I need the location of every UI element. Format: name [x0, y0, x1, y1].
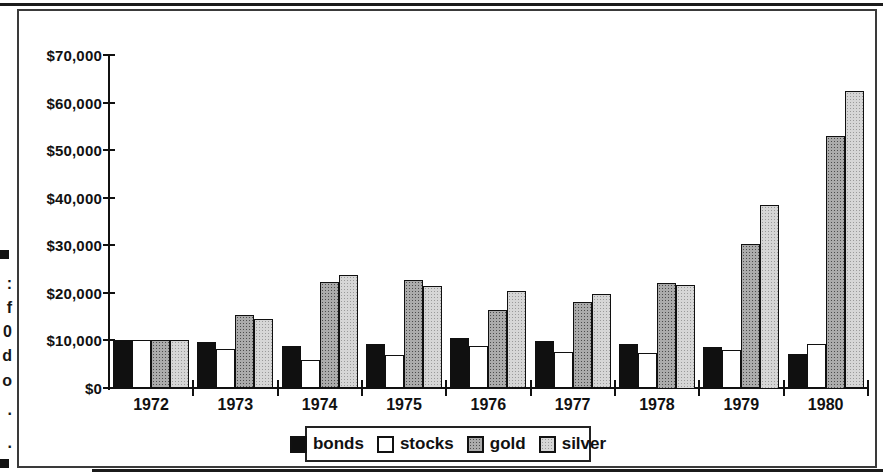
- x-axis-label-1972: 1972: [109, 397, 193, 413]
- bar-bonds-1972: [113, 340, 132, 388]
- x-axis-label-1973: 1973: [193, 397, 277, 413]
- top-horizontal-rule: [0, 3, 883, 6]
- bar-stocks-1975: [385, 355, 404, 388]
- y-axis-label: $20,000: [28, 286, 102, 301]
- bar-silver-1976: [507, 291, 526, 388]
- x-axis-tick: [783, 380, 785, 396]
- bar-silver-1979: [760, 205, 779, 389]
- bar-stocks-1980: [807, 344, 826, 388]
- bar-bonds-1973: [197, 342, 216, 389]
- bar-gold-1978: [657, 283, 676, 389]
- x-axis-tick: [530, 380, 532, 396]
- bar-stocks-1977: [554, 352, 573, 388]
- bar-stocks-1973: [216, 349, 235, 388]
- x-axis-label-1978: 1978: [615, 397, 699, 413]
- bar-bonds-1975: [366, 344, 385, 388]
- bar-stocks-1979: [722, 350, 741, 388]
- bar-stocks-1972: [132, 340, 151, 388]
- x-axis-tick: [192, 380, 194, 396]
- y-axis-tick: [103, 54, 115, 56]
- caption-text-fragment: f: [0, 300, 12, 316]
- x-axis-tick: [614, 380, 616, 396]
- caption-text-fragment: .: [0, 402, 12, 418]
- x-axis-label-1976: 1976: [446, 397, 530, 413]
- bar-stocks-1974: [301, 360, 320, 388]
- bar-silver-1980: [845, 91, 864, 388]
- caption-text-fragment: d: [0, 348, 12, 364]
- legend-swatch-silver: [539, 436, 556, 453]
- legend-swatch-stocks: [377, 436, 394, 453]
- bar-gold-1976: [488, 310, 507, 388]
- bar-stocks-1976: [469, 346, 488, 388]
- bar-silver-1974: [339, 275, 358, 388]
- scanned-book-figure: { "figure": { "caption_margin_fragments"…: [0, 0, 883, 475]
- bar-silver-1975: [423, 286, 442, 388]
- bar-silver-1977: [592, 294, 611, 389]
- legend-label-gold: gold: [490, 434, 526, 454]
- bar-bonds-1977: [535, 341, 554, 388]
- bar-bonds-1978: [619, 344, 638, 388]
- bar-gold-1972: [151, 340, 170, 388]
- x-axis-label-1980: 1980: [784, 397, 868, 413]
- bar-bonds-1976: [450, 338, 469, 388]
- caption-text-fragment: 0: [0, 324, 12, 340]
- bar-gold-1980: [826, 136, 845, 389]
- bar-bonds-1974: [282, 346, 301, 388]
- bar-gold-1973: [235, 315, 254, 389]
- x-axis-tick: [277, 380, 279, 396]
- y-axis-label: $60,000: [28, 96, 102, 111]
- x-axis-label-1977: 1977: [531, 397, 615, 413]
- chart-frame: $0$10,000$20,000$30,000$40,000$50,000$60…: [17, 9, 877, 468]
- bar-silver-1972: [170, 340, 189, 388]
- legend-swatch-bonds: [290, 436, 307, 453]
- y-axis-tick: [103, 244, 115, 246]
- bar-silver-1978: [676, 285, 695, 388]
- legend-label-stocks: stocks: [400, 434, 454, 454]
- x-axis-tick: [698, 380, 700, 396]
- x-axis-label-1974: 1974: [278, 397, 362, 413]
- plot-area: $0$10,000$20,000$30,000$40,000$50,000$60…: [19, 11, 875, 466]
- caption-text-fragment: o: [0, 373, 12, 389]
- x-axis-tick: [445, 380, 447, 396]
- y-axis-label: $30,000: [28, 238, 102, 253]
- legend: bonds stocks gold silver: [305, 426, 591, 462]
- y-axis-tick: [103, 292, 115, 294]
- bar-gold-1975: [404, 280, 423, 388]
- y-axis-label: $10,000: [28, 333, 102, 348]
- x-axis-tick: [867, 380, 869, 396]
- bar-gold-1977: [573, 302, 592, 389]
- y-axis-label: $0: [28, 381, 102, 396]
- y-axis-label: $40,000: [28, 191, 102, 206]
- legend-swatch-gold: [467, 436, 484, 453]
- bar-bonds-1979: [703, 347, 722, 388]
- legend-label-silver: silver: [562, 434, 606, 454]
- x-axis-tick: [361, 380, 363, 396]
- caption-square-fragment: [0, 459, 9, 468]
- bar-gold-1974: [320, 282, 339, 388]
- caption-text-fragment: .: [0, 435, 12, 451]
- bar-bonds-1980: [788, 354, 807, 389]
- caption-text-fragment: :: [0, 276, 12, 292]
- x-axis-label-1975: 1975: [362, 397, 446, 413]
- bar-silver-1973: [254, 319, 273, 388]
- bar-gold-1979: [741, 244, 760, 388]
- y-axis-tick: [103, 149, 115, 151]
- y-axis-label: $70,000: [28, 48, 102, 63]
- y-axis-tick: [103, 197, 115, 199]
- y-axis-tick: [103, 102, 115, 104]
- y-axis-label: $50,000: [28, 143, 102, 158]
- bottom-horizontal-rule: [92, 469, 883, 472]
- x-axis-label-1979: 1979: [699, 397, 783, 413]
- legend-label-bonds: bonds: [313, 434, 364, 454]
- bar-stocks-1978: [638, 353, 657, 389]
- caption-square-fragment: [0, 250, 9, 259]
